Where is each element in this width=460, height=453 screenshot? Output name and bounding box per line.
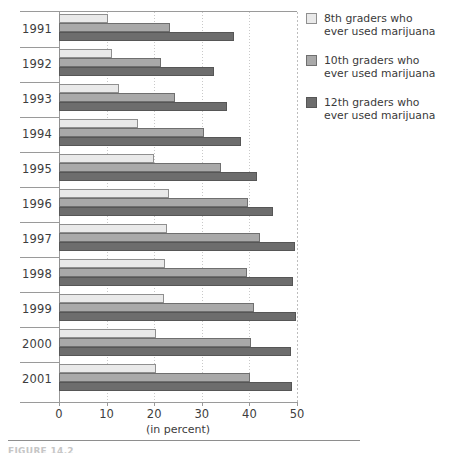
legend-label-8th: 8th graders who ever used marijuana bbox=[324, 12, 435, 38]
year-label-1998: 1998 bbox=[0, 267, 52, 281]
year-label-1995: 1995 bbox=[0, 162, 52, 176]
x-tick-label: 40 bbox=[229, 407, 269, 421]
legend-swatch-8th-icon bbox=[306, 13, 317, 24]
year-label-1994: 1994 bbox=[0, 127, 52, 141]
group-separator bbox=[20, 257, 59, 258]
year-label-1992: 1992 bbox=[0, 57, 52, 71]
tick-mark-0 bbox=[59, 402, 60, 406]
bar-1993-series2 bbox=[59, 102, 227, 111]
tick-mark-30 bbox=[202, 402, 203, 406]
x-tick-label: 50 bbox=[277, 407, 317, 421]
group-separator bbox=[20, 47, 59, 48]
year-label-2000: 2000 bbox=[0, 337, 52, 351]
bar-1999-series1 bbox=[59, 303, 254, 312]
legend-label-line1: 12th graders who bbox=[324, 96, 419, 109]
legend-label-line1: 10th graders who bbox=[324, 54, 419, 67]
group-separator bbox=[20, 292, 59, 293]
tick-mark-20 bbox=[154, 402, 155, 406]
bar-1992-series1 bbox=[59, 58, 161, 67]
x-tick-label: 30 bbox=[182, 407, 222, 421]
bar-1991-series0 bbox=[59, 14, 108, 23]
year-label-1991: 1991 bbox=[0, 22, 52, 36]
bar-1995-series1 bbox=[59, 163, 221, 172]
legend-label-line2: ever used marijuana bbox=[324, 25, 435, 38]
year-label-1997: 1997 bbox=[0, 232, 52, 246]
legend-item: 12th graders who ever used marijuana bbox=[306, 96, 456, 122]
bar-1994-series1 bbox=[59, 128, 204, 137]
legend-label-12th: 12th graders who ever used marijuana bbox=[324, 96, 435, 122]
bar-1997-series0 bbox=[59, 224, 167, 233]
bar-1994-series0 bbox=[59, 119, 138, 128]
legend-label-line2: ever used marijuana bbox=[324, 67, 435, 80]
bar-1998-series2 bbox=[59, 277, 293, 286]
bar-1991-series1 bbox=[59, 23, 170, 32]
figure-caption: FIGURE 14.2 bbox=[8, 446, 74, 453]
bar-2000-series0 bbox=[59, 329, 156, 338]
bar-1993-series0 bbox=[59, 84, 119, 93]
bar-1996-series2 bbox=[59, 207, 273, 216]
bar-2001-series2 bbox=[59, 382, 292, 391]
bar-1992-series2 bbox=[59, 67, 214, 76]
legend-item: 10th graders who ever used marijuana bbox=[306, 54, 456, 80]
year-label-1996: 1996 bbox=[0, 197, 52, 211]
group-separator bbox=[20, 117, 59, 118]
group-separator bbox=[20, 327, 59, 328]
bar-1995-series0 bbox=[59, 154, 154, 163]
legend-label-line1: 8th graders who bbox=[324, 12, 413, 25]
chart-figure: 1991199219931994199519961997199819992000… bbox=[0, 0, 460, 453]
x-tick-label: 10 bbox=[87, 407, 127, 421]
footer-divider bbox=[8, 440, 360, 441]
bar-1993-series1 bbox=[59, 93, 175, 102]
year-label-1993: 1993 bbox=[0, 92, 52, 106]
bar-1998-series0 bbox=[59, 259, 165, 268]
chart-legend: 8th graders who ever used marijuana 10th… bbox=[306, 12, 456, 138]
bar-2000-series1 bbox=[59, 338, 251, 347]
group-separator bbox=[20, 82, 59, 83]
tick-mark-40 bbox=[249, 402, 250, 406]
x-tick-label: 0 bbox=[39, 407, 79, 421]
group-separator bbox=[20, 187, 59, 188]
bar-1997-series1 bbox=[59, 233, 260, 242]
bar-1992-series0 bbox=[59, 49, 112, 58]
bar-2001-series0 bbox=[59, 364, 156, 373]
bar-1997-series2 bbox=[59, 242, 295, 251]
gridline-50 bbox=[297, 12, 298, 402]
year-label-1999: 1999 bbox=[0, 302, 52, 316]
bar-1996-series0 bbox=[59, 189, 169, 198]
bar-1995-series2 bbox=[59, 172, 257, 181]
x-axis-line bbox=[20, 402, 297, 403]
bar-2001-series1 bbox=[59, 373, 250, 382]
bar-1999-series2 bbox=[59, 312, 296, 321]
bar-1998-series1 bbox=[59, 268, 247, 277]
tick-mark-10 bbox=[107, 402, 108, 406]
legend-label-10th: 10th graders who ever used marijuana bbox=[324, 54, 435, 80]
group-separator bbox=[20, 152, 59, 153]
group-separator bbox=[20, 222, 59, 223]
bar-2000-series2 bbox=[59, 347, 291, 356]
plot-top-rule bbox=[20, 11, 297, 12]
legend-item: 8th graders who ever used marijuana bbox=[306, 12, 456, 38]
x-tick-label: 20 bbox=[134, 407, 174, 421]
legend-label-line2: ever used marijuana bbox=[324, 109, 435, 122]
bar-1994-series2 bbox=[59, 137, 241, 146]
group-separator bbox=[20, 362, 59, 363]
legend-swatch-10th-icon bbox=[306, 55, 317, 66]
x-axis-title: (in percent) bbox=[59, 423, 297, 436]
bar-1996-series1 bbox=[59, 198, 248, 207]
bar-1991-series2 bbox=[59, 32, 234, 41]
tick-mark-50 bbox=[297, 402, 298, 406]
legend-swatch-12th-icon bbox=[306, 97, 317, 108]
bar-1999-series0 bbox=[59, 294, 164, 303]
year-label-2001: 2001 bbox=[0, 372, 52, 386]
